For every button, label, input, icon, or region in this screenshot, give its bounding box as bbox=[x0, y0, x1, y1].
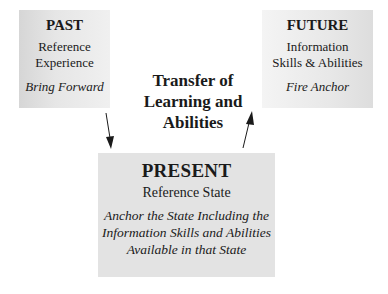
arrow-up-icon bbox=[243, 111, 254, 148]
flow-arrows bbox=[0, 0, 388, 294]
arrow-down-icon bbox=[106, 113, 114, 149]
